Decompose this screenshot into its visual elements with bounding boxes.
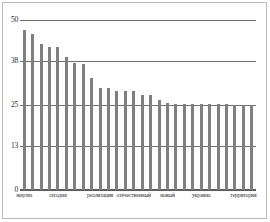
bar [124,91,127,190]
x-tick-label: реализация [87,192,113,198]
plot-area [20,20,256,190]
bar [225,104,228,190]
bar-chart: 013253850 жертвасегодняреализацияотечест… [0,0,270,222]
x-tick-label: сегодня [49,192,67,198]
x-axis-ticks: жертвасегодняреализацияотечественныйновы… [20,192,256,208]
bar [174,104,177,190]
bar [23,30,26,190]
bar [31,34,34,190]
bar [90,78,93,190]
bar [56,47,59,190]
bar [141,95,144,190]
x-tick-label: территория [230,192,256,198]
x-tick-label: украина [192,192,211,198]
bar [73,63,76,191]
x-tick-label: отечественный [117,192,151,198]
bar [166,103,169,190]
bar [191,104,194,190]
bar [242,105,245,190]
y-tick-label-25: 25 [2,101,18,109]
bar [99,88,102,190]
bar [217,104,220,190]
bar [132,91,135,190]
bar [82,64,85,190]
y-tick-label-38: 38 [2,57,18,65]
x-tick-label: новый [160,192,175,198]
bar [65,57,68,190]
bar [233,105,236,190]
y-tick-label-50: 50 [2,16,18,24]
bar [115,91,118,190]
bar [107,88,110,190]
bar [183,104,186,190]
bar [208,104,211,190]
y-tick-label-13: 13 [2,142,18,150]
bars-group [20,20,256,190]
bar [250,105,253,190]
bar [40,44,43,190]
x-tick-label: жертва [16,192,32,198]
bar [200,104,203,190]
bar [158,100,161,190]
bar [48,47,51,190]
bar [149,95,152,190]
